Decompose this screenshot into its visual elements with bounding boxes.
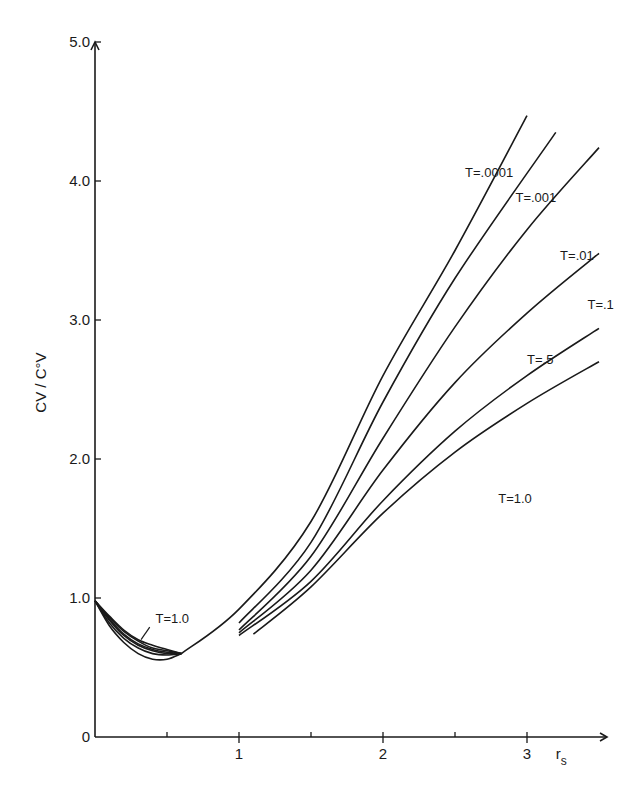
chart-canvas: 12301.02.03.04.05.0rsCV / C°V T=.0001T=.… [0,0,631,786]
curve-label: T=.0001 [465,165,513,180]
y-axis-title: CV / C°V [32,352,49,412]
x-tick-label: 2 [379,745,387,762]
curve-label: T=.001 [515,190,556,205]
curve-low-branch [95,601,181,654]
y-tick-label: 4.0 [69,172,90,189]
curve-labels: T=.0001T=.001T=.01T=.1T=.5T=1.0T=1.0 [141,165,614,640]
y-tick-label: 0 [82,728,90,745]
curve-label: T=.5 [527,352,553,367]
curve-label: T=1.0 [498,491,532,506]
series-t-1-0 [95,362,599,654]
y-tick-label: 2.0 [69,450,90,467]
series-t-1 [95,253,599,653]
y-tick-label: 5.0 [69,33,90,50]
curve-label: T=.1 [587,297,613,312]
axes: 12301.02.03.04.05.0rsCV / C°V [32,33,607,768]
curve-label: T=1.0 [155,611,189,626]
curve-low-branch [95,601,181,655]
series-t-0001 [95,116,527,660]
y-tick-label: 3.0 [69,311,90,328]
curve-high-branch [239,253,599,633]
series-t-001 [95,132,556,655]
series-t-01 [95,148,599,654]
x-axis-title: rs [556,745,567,768]
x-tick-label: 3 [523,745,531,762]
curve-high-branch [181,116,527,654]
curve-high-branch [239,132,556,623]
y-tick-label: 1.0 [69,589,90,606]
label-leader-line [141,627,150,640]
chart: 12301.02.03.04.05.0rsCV / C°V T=.0001T=.… [0,0,631,786]
curve-high-branch [239,148,599,630]
curve-label: T=.01 [560,248,594,263]
curve-high-branch [253,362,599,634]
x-tick-label: 1 [235,745,243,762]
